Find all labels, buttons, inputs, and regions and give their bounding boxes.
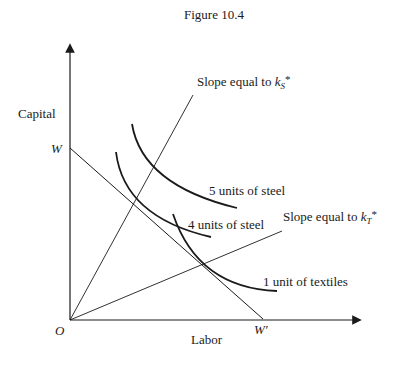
textile-ray	[70, 231, 282, 320]
steel-ray-label: Slope equal to kS*	[197, 75, 290, 88]
steel-ray-label-star: *	[285, 73, 291, 85]
steel-ray	[70, 95, 193, 320]
steel-ray-label-prefix: Slope equal to	[197, 74, 275, 89]
origin-label: O	[55, 324, 64, 337]
isoquant-1-textiles-label: 1 unit of textiles	[263, 275, 348, 288]
w-label: W	[51, 142, 62, 155]
textile-ray-label: Slope equal to kT*	[283, 210, 377, 223]
isoquant-diagram	[0, 0, 402, 365]
isoquant-5-steel-label: 5 units of steel	[209, 184, 285, 197]
x-axis-label: Labor	[191, 333, 222, 346]
figure-title: Figure 10.4	[184, 8, 244, 21]
y-axis-label: Capital	[18, 107, 56, 120]
isoquant-4-steel-label: 4 units of steel	[188, 218, 264, 231]
textile-ray-label-star: *	[371, 208, 377, 220]
w-prime-label: W′	[254, 323, 268, 336]
textile-ray-label-prefix: Slope equal to	[283, 209, 361, 224]
isocost-line	[70, 148, 263, 319]
